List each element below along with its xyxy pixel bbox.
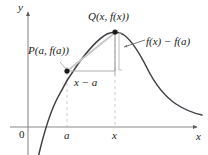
x-axis-label: x xyxy=(196,131,201,142)
p-label-leader xyxy=(60,62,66,69)
origin-label: 0 xyxy=(19,129,25,140)
rise-annotation-label: f(x) − f(a) xyxy=(146,36,190,47)
point-P-label: P(a, f(a)) xyxy=(28,45,69,56)
point-P-marker xyxy=(64,68,69,73)
y-axis-label: y xyxy=(18,2,23,13)
calculus-secant-figure: y x 0 a x P(a, f(a)) Q(x, f(x)) f(x) − f… xyxy=(0,0,208,155)
tick-label-x: x xyxy=(112,130,117,141)
point-Q-label: Q(x, f(x)) xyxy=(88,11,129,22)
run-annotation-label: x − a xyxy=(74,77,97,88)
point-Q-marker xyxy=(112,29,117,34)
figure-canvas xyxy=(0,0,208,155)
secant-line xyxy=(66,31,117,72)
tick-label-a: a xyxy=(64,130,70,141)
